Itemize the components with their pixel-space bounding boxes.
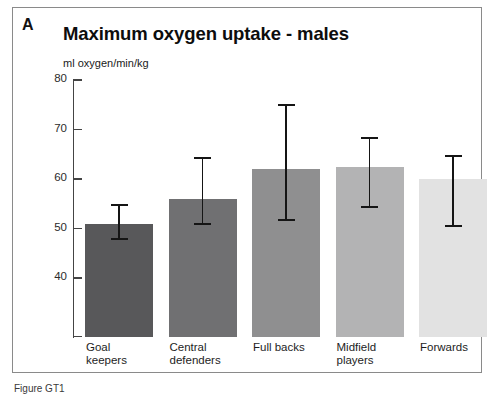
category-label-line: Goal xyxy=(86,341,172,354)
error-bar-cap-upper-1 xyxy=(111,204,128,206)
y-tick-70 xyxy=(73,129,82,130)
figure-caption: Figure GT1 xyxy=(14,383,65,394)
error-bar-cap-upper-2 xyxy=(194,157,211,159)
panel-letter: A xyxy=(22,16,34,34)
y-tick-label-80: 80 xyxy=(43,72,67,84)
error-bar-cap-lower-2 xyxy=(194,223,211,225)
error-bar-line-1 xyxy=(118,205,120,239)
category-label-5: Forwards xyxy=(420,341,494,354)
category-label-line: Central xyxy=(170,341,256,354)
category-label-1: Goalkeepers xyxy=(86,341,172,366)
category-label-line: Midfield xyxy=(337,341,423,354)
y-tick-50 xyxy=(73,228,82,229)
category-label-line: keepers xyxy=(86,354,172,367)
chart-title: Maximum oxygen uptake - males xyxy=(63,23,349,45)
error-bar-cap-upper-5 xyxy=(445,155,462,157)
y-tick-label-60: 60 xyxy=(43,171,67,183)
error-bar-cap-lower-3 xyxy=(278,219,295,221)
y-tick-label-50: 50 xyxy=(43,221,67,233)
error-bar-cap-lower-1 xyxy=(111,238,128,240)
y-tick-40 xyxy=(73,277,82,278)
category-label-line: defenders xyxy=(170,354,256,367)
error-bar-cap-lower-4 xyxy=(361,206,378,208)
error-bar-cap-upper-3 xyxy=(278,104,295,106)
y-axis-bottom-hook xyxy=(73,336,82,337)
error-bar-cap-lower-5 xyxy=(445,225,462,227)
category-label-2: Centraldefenders xyxy=(170,341,256,366)
y-axis-unit-label: ml oxygen/min/kg xyxy=(63,57,149,69)
error-bar-line-3 xyxy=(285,105,287,220)
y-tick-label-70: 70 xyxy=(43,122,67,134)
error-bar-line-5 xyxy=(452,156,454,226)
error-bar-cap-upper-4 xyxy=(361,137,378,139)
y-tick-label-40: 40 xyxy=(43,270,67,282)
y-axis-line xyxy=(73,80,74,337)
category-label-line: Full backs xyxy=(253,341,339,354)
category-label-4: Midfieldplayers xyxy=(337,341,423,366)
figure-root: A Maximum oxygen uptake - males ml oxyge… xyxy=(0,0,494,400)
error-bar-line-2 xyxy=(202,158,204,224)
category-label-line: players xyxy=(337,354,423,367)
category-label-3: Full backs xyxy=(253,341,339,354)
y-axis-top-hook xyxy=(73,80,82,81)
category-label-line: Forwards xyxy=(420,341,494,354)
y-tick-60 xyxy=(73,178,82,179)
error-bar-line-4 xyxy=(369,138,371,207)
bar-goal-keepers xyxy=(85,224,153,337)
